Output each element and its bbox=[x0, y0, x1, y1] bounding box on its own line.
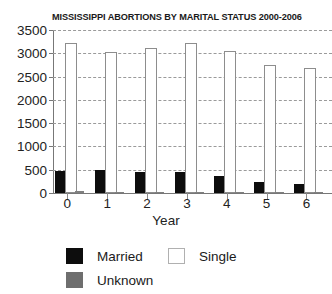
chart-legend: Married Unknown Single bbox=[0, 248, 332, 294]
bar-unknown-year-0 bbox=[75, 191, 84, 193]
legend-swatch-single-icon bbox=[168, 248, 185, 264]
bar-unknown-year-2 bbox=[155, 192, 164, 193]
bar-unknown-year-1 bbox=[115, 192, 124, 193]
x-axis-title: Year bbox=[0, 213, 332, 228]
legend-entry-single: Single bbox=[168, 248, 237, 264]
bar-single-year-1 bbox=[105, 52, 117, 193]
y-axis-tick-label: 3000 bbox=[17, 46, 47, 61]
plot-area bbox=[53, 30, 332, 193]
bar-unknown-year-4 bbox=[235, 192, 244, 193]
bar-single-year-6 bbox=[304, 68, 316, 193]
chart-figure: MISSISSIPPI ABORTIONS BY MARITAL STATUS … bbox=[0, 0, 332, 294]
x-axis-tick-label: 5 bbox=[255, 196, 279, 211]
legend-entry-married: Married bbox=[66, 248, 143, 264]
x-axis-tick-label: 1 bbox=[95, 196, 119, 211]
legend-label-married: Married bbox=[97, 249, 143, 264]
bar-unknown-year-3 bbox=[195, 192, 204, 193]
y-axis-tick-label: 2000 bbox=[17, 92, 47, 107]
y-axis-tick-label: 1000 bbox=[17, 139, 47, 154]
x-axis-line bbox=[53, 193, 332, 194]
y-axis-tick-label: 1500 bbox=[17, 116, 47, 131]
bar-unknown-year-6 bbox=[314, 192, 323, 193]
gridline bbox=[53, 30, 332, 31]
bar-single-year-3 bbox=[185, 43, 197, 193]
bar-single-year-2 bbox=[145, 48, 157, 193]
x-axis-tick-label: 4 bbox=[215, 196, 239, 211]
bar-single-year-5 bbox=[264, 65, 276, 193]
bar-unknown-year-5 bbox=[275, 192, 284, 193]
x-axis-tick-label: 0 bbox=[55, 196, 79, 211]
legend-label-single: Single bbox=[199, 249, 237, 264]
y-axis-tick-label: 2500 bbox=[17, 69, 47, 84]
legend-entry-unknown: Unknown bbox=[66, 272, 153, 288]
x-axis-tick-label: 6 bbox=[294, 196, 318, 211]
bar-single-year-4 bbox=[224, 51, 236, 194]
legend-swatch-married-icon bbox=[66, 248, 83, 264]
x-axis-tick-label: 2 bbox=[135, 196, 159, 211]
legend-swatch-unknown-icon bbox=[66, 272, 83, 288]
y-axis-tick-label: 0 bbox=[39, 186, 47, 201]
chart-title: MISSISSIPPI ABORTIONS BY MARITAL STATUS … bbox=[52, 12, 328, 22]
x-axis-tick-label: 3 bbox=[175, 196, 199, 211]
bar-single-year-0 bbox=[65, 43, 77, 193]
y-axis-tick-label: 500 bbox=[24, 162, 47, 177]
legend-label-unknown: Unknown bbox=[97, 273, 153, 288]
y-axis-tick-label: 3500 bbox=[17, 23, 47, 38]
